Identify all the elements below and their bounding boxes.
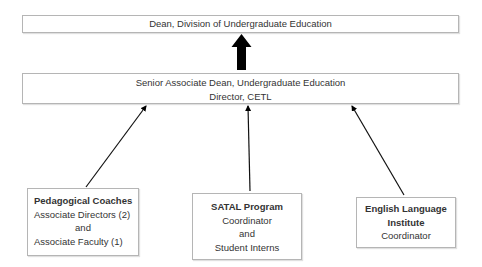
- senior-associate-dean-box: Senior Associate Dean, Undergraduate Edu…: [22, 73, 459, 104]
- english-language-title-line1: English Language: [357, 202, 455, 216]
- and-text: and: [34, 221, 138, 235]
- and-text: and: [193, 227, 301, 241]
- senior-associate-dean-title: Senior Associate Dean, Undergraduate Edu…: [23, 76, 458, 90]
- satal-program-box: SATAL Program Coordinator and Student In…: [192, 193, 302, 260]
- arrow-satal-program: [248, 106, 250, 191]
- english-language-title-line2: Institute: [357, 216, 455, 230]
- satal-coordinator-text: Coordinator: [193, 214, 301, 228]
- dean-box: Dean, Division of Undergraduate Educatio…: [22, 15, 459, 33]
- pedagogical-coaches-box: Pedagogical Coaches Associate Directors …: [27, 188, 139, 256]
- pedagogical-coaches-title: Pedagogical Coaches: [34, 194, 138, 208]
- dean-title: Dean, Division of Undergraduate Educatio…: [23, 16, 458, 32]
- satal-program-title: SATAL Program: [193, 200, 301, 214]
- student-interns-text: Student Interns: [193, 241, 301, 255]
- director-cetl-title: Director, CETL: [23, 90, 458, 104]
- arrow-english-language-institute: [352, 106, 404, 195]
- associate-faculty-text: Associate Faculty (1): [34, 235, 138, 249]
- english-language-institute-box: English Language Institute Coordinator: [356, 197, 456, 248]
- eli-coordinator-text: Coordinator: [357, 229, 455, 243]
- associate-directors-text: Associate Directors (2): [34, 208, 138, 222]
- thick-up-arrow-icon: [232, 34, 252, 70]
- arrow-pedagogical-coaches: [86, 106, 146, 187]
